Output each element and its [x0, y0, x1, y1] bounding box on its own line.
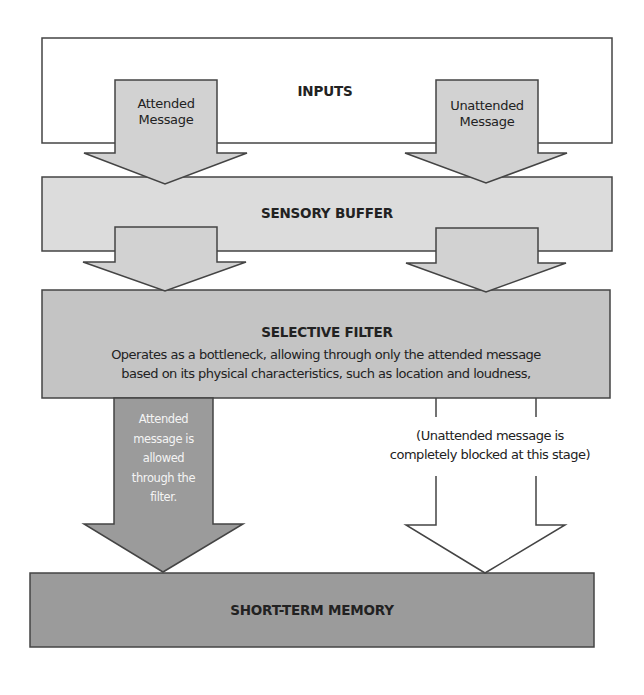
attended-input-line1: Attended [115, 96, 217, 112]
attended-passed-line5: filter. [114, 488, 213, 508]
inputs-label: INPUTS [250, 83, 400, 100]
unattended-input-line1: Unattended [434, 98, 540, 114]
selective-filter-label: SELECTIVE FILTER [227, 324, 427, 341]
attended-passed-line1: Attended [114, 410, 213, 430]
selective-filter-desc-line1: Operates as a bottleneck, allowing throu… [42, 345, 610, 364]
attended-passed-line4: through the [114, 469, 213, 489]
attended-input-label: Attended Message [115, 96, 217, 129]
attended-input-line2: Message [115, 112, 217, 128]
attended-passed-line3: allowed [114, 449, 213, 469]
unattended-blocked-label: (Unattended message is completely blocke… [370, 426, 610, 464]
unattended-input-line2: Message [434, 114, 540, 130]
attended-passed-label: Attended message is allowed through the … [114, 410, 213, 508]
selective-filter-description: Operates as a bottleneck, allowing throu… [42, 345, 610, 383]
unattended-input-label: Unattended Message [434, 98, 540, 131]
filter-model-diagram: INPUTS Attended Message Unattended Messa… [0, 0, 644, 695]
sensory-buffer-label: SENSORY BUFFER [227, 205, 427, 222]
selective-filter-desc-line2: based on its physical characteristics, s… [42, 364, 610, 383]
attended-passed-line2: message is [114, 430, 213, 450]
unattended-blocked-line2: completely blocked at this stage) [370, 445, 610, 464]
unattended-blocked-line1: (Unattended message is [370, 426, 610, 445]
unattended-blocked-arrow-icon [406, 398, 565, 573]
short-term-memory-label: SHORT-TERM MEMORY [182, 602, 442, 619]
